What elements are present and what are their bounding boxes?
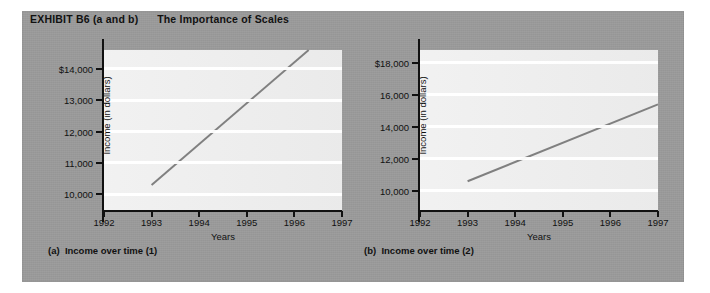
chart-a: 10,00011,00012,00013,000$14,000199219931… <box>22 39 342 271</box>
y-tick-label: 12,000 <box>380 153 409 164</box>
x-tick-label: 1997 <box>647 217 668 228</box>
plot-canvas-a: 10,00011,00012,00013,000$14,000199219931… <box>104 50 342 210</box>
y-tick-label: 13,000 <box>64 95 93 106</box>
x-axis-label-a: Years <box>104 231 342 242</box>
gridline-y <box>420 61 658 64</box>
chart-b: 10,00012,00014,00016,000$18,000199219931… <box>338 39 658 271</box>
plot-canvas-b: 10,00012,00014,00016,000$18,000199219931… <box>420 50 658 210</box>
y-tick-label: 10,000 <box>380 185 409 196</box>
x-tick-label: 1995 <box>552 217 573 228</box>
y-tick <box>412 190 419 192</box>
y-tick-label: $18,000 <box>375 57 409 68</box>
x-tick-label: 1992 <box>409 217 430 228</box>
y-tick-label: 11,000 <box>65 157 93 168</box>
gridline-y <box>104 161 342 164</box>
plot-area-a: 10,00011,00012,00013,000$14,000199219931… <box>104 50 342 210</box>
y-tick-label: 12,000 <box>64 126 93 137</box>
chart-caption-a: (a) Income over time (1) <box>48 245 157 256</box>
y-tick-label: $14,000 <box>59 63 93 74</box>
gridline-y <box>104 99 342 102</box>
gridline-y <box>420 93 658 96</box>
chart-caption-b: (b) Income over time (2) <box>364 245 474 256</box>
gridline-y <box>420 189 658 192</box>
x-tick-label: 1994 <box>189 217 210 228</box>
x-tick-label: 1994 <box>505 217 526 228</box>
x-tick-label: 1993 <box>141 217 162 228</box>
y-axis-label-a: Income (in dollars) <box>101 56 112 176</box>
exhibit-title: EXHIBIT B6 (a and b) The Importance of S… <box>30 13 289 25</box>
y-tick <box>96 193 103 195</box>
plot-area-b: 10,00012,00014,00016,000$18,000199219931… <box>420 50 658 210</box>
gridline-y <box>104 67 342 70</box>
x-tick-label: 1996 <box>600 217 621 228</box>
gridline-y <box>420 125 658 128</box>
y-axis-label-b: Income (in dollars) <box>417 56 428 176</box>
x-tick-label: 1993 <box>457 217 478 228</box>
x-tick-label: 1995 <box>236 217 257 228</box>
gridline-y <box>104 130 342 133</box>
y-tick-label: 16,000 <box>380 89 409 100</box>
gridline-y <box>420 157 658 160</box>
y-tick-label: 14,000 <box>380 121 409 132</box>
y-tick-label: 10,000 <box>64 189 93 200</box>
x-axis-label-b: Years <box>420 231 658 242</box>
exhibit-figure: EXHIBIT B6 (a and b) The Importance of S… <box>0 0 710 293</box>
x-tick-label: 1996 <box>284 217 305 228</box>
x-tick-label: 1992 <box>93 217 114 228</box>
gridline-y <box>104 193 342 196</box>
series-line-b <box>420 38 658 222</box>
